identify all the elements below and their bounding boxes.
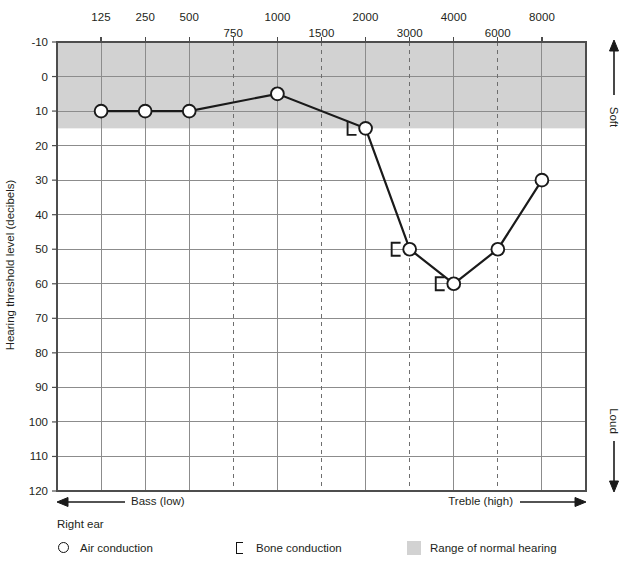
- legend-title: Right ear: [57, 518, 104, 530]
- x-tick-250: 250: [135, 11, 155, 23]
- x-tick-125: 125: [91, 11, 111, 23]
- y-axis-top-annotation: Soft: [608, 107, 620, 127]
- legend-label: Range of normal hearing: [430, 542, 557, 554]
- y-axis-title: Hearing threshold level (decibels): [4, 180, 16, 351]
- x-axis-left-annotation: Bass (low): [131, 495, 185, 507]
- x-tick-8000: 8000: [529, 11, 555, 23]
- legend-item-normal-range: Range of normal hearing: [407, 540, 557, 556]
- y-tick-20: 20: [8, 140, 48, 152]
- legend-label: Bone conduction: [256, 542, 342, 554]
- x-tick-500: 500: [180, 11, 200, 23]
- audiogram-chart: [0, 0, 634, 570]
- circle-icon: [57, 540, 71, 556]
- legend-item-bone-conduction: Bone conduction: [233, 540, 342, 556]
- x-tick-1000: 1000: [264, 11, 290, 23]
- y-tick-110: 110: [8, 450, 48, 462]
- y-tick-90: 90: [8, 381, 48, 393]
- y-tick-100: 100: [8, 416, 48, 428]
- x-tick-4000: 4000: [441, 11, 467, 23]
- x-tick-6000: 6000: [485, 27, 511, 39]
- y-axis-bottom-annotation: Loud: [608, 408, 620, 434]
- x-tick-2000: 2000: [353, 11, 379, 23]
- y-tick--10: -10: [8, 36, 48, 48]
- y-tick-120: 120: [8, 485, 48, 497]
- y-axis-ticks: [52, 42, 57, 491]
- legend-item-air-conduction: Air conduction: [57, 540, 153, 556]
- x-axis-right-annotation: Treble (high): [448, 495, 513, 507]
- y-tick-10: 10: [8, 105, 48, 117]
- x-tick-3000: 3000: [397, 27, 423, 39]
- gray-swatch-icon: [407, 540, 421, 556]
- y-tick-0: 0: [8, 71, 48, 83]
- x-tick-750: 750: [224, 27, 244, 39]
- bracket-icon: [233, 540, 247, 556]
- x-tick-1500: 1500: [309, 27, 335, 39]
- legend-label: Air conduction: [80, 542, 153, 554]
